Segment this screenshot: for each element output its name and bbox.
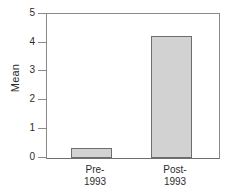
y-tick-label-1: 1 [5,123,35,133]
x-tick-label-post-1993-line2: 1993 [130,176,220,188]
y-tick-label-0: 0 [5,152,35,162]
x-tick-label-pre-1993-line2: 1993 [50,176,140,188]
y-tick-mark-3 [38,70,46,71]
y-tick-label-3: 3 [5,65,35,75]
plot-area [46,13,220,159]
bar-post-1993 [151,36,192,158]
y-tick-mark-1 [38,128,46,129]
y-tick-mark-0 [38,157,46,158]
y-tick-mark-4 [38,42,46,43]
x-tick-label-post-1993: Post- 1993 [130,164,220,188]
bar-chart: Mean 5 4 3 2 1 0 Pre- 1993 Post- 1993 [0,0,238,195]
y-tick-mark-2 [38,99,46,100]
x-tick-label-pre-1993-line1: Pre- [50,164,140,176]
y-tick-mark-5 [38,13,46,14]
y-tick-label-4: 4 [5,37,35,47]
x-tick-label-post-1993-line1: Post- [130,164,220,176]
y-tick-label-2: 2 [5,94,35,104]
x-tick-label-pre-1993: Pre- 1993 [50,164,140,188]
y-tick-label-5: 5 [5,8,35,18]
bar-pre-1993 [71,148,112,158]
